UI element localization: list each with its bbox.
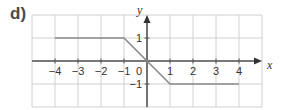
x-tick-label: 4 bbox=[236, 65, 242, 77]
x-axis-label: x bbox=[266, 58, 273, 72]
y-tick-label: 1 bbox=[136, 32, 142, 44]
x-tick-label: 1 bbox=[167, 65, 173, 77]
chart-plot: xy−4−3−2−1012341−1 bbox=[0, 0, 283, 110]
x-tick-label: −1 bbox=[118, 65, 131, 77]
y-tick-label: −1 bbox=[129, 78, 142, 90]
x-tick-label: 2 bbox=[190, 65, 196, 77]
x-axis-arrow-icon bbox=[254, 58, 262, 65]
y-axis-arrow-icon bbox=[144, 15, 151, 23]
x-tick-label: 3 bbox=[213, 65, 219, 77]
x-tick-label: −2 bbox=[95, 65, 108, 77]
y-axis-label: y bbox=[136, 3, 143, 17]
x-tick-label: −3 bbox=[72, 65, 85, 77]
chart-figure: d) xy−4−3−2−1012341−1 bbox=[0, 0, 283, 110]
x-tick-label: −4 bbox=[49, 65, 62, 77]
x-tick-label: 0 bbox=[136, 65, 142, 77]
